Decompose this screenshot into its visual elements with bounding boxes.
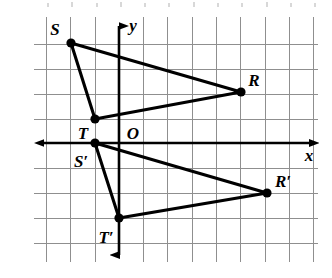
label-r: R [247, 71, 259, 90]
label-origin: O [127, 124, 139, 143]
label-r-prime: R′ [274, 172, 291, 191]
vertex-t [90, 114, 99, 123]
vertex-t-prime [114, 213, 123, 222]
label-t: T [78, 124, 89, 143]
label-x-axis: x [304, 146, 314, 165]
coordinate-plane-svg: S R T S′ R′ T′ O x y [0, 0, 332, 278]
vertex-s-prime [90, 138, 99, 147]
label-t-prime: T′ [98, 228, 113, 247]
label-s: S [50, 20, 59, 39]
label-s-prime: S′ [74, 152, 88, 171]
coordinate-plane-figure: S R T S′ R′ T′ O x y [0, 0, 332, 278]
vertex-r-prime [262, 188, 271, 197]
figure-background [0, 0, 332, 278]
vertex-r [236, 87, 245, 96]
vertex-s [66, 38, 75, 47]
label-y-axis: y [127, 16, 137, 35]
